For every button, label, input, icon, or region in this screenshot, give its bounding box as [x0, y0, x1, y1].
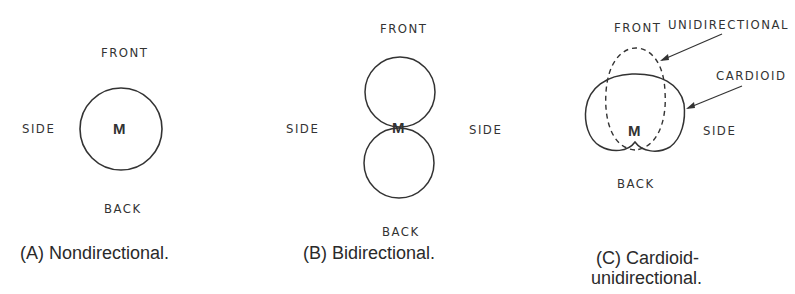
b-side-left-label: SIDE — [286, 121, 319, 136]
c-side-label: SIDE — [703, 123, 736, 138]
bidirectional-back-lobe — [364, 128, 434, 198]
a-mic-label: M — [113, 120, 126, 137]
a-caption: (A) Nondirectional. — [20, 243, 169, 264]
c-back-label: BACK — [617, 176, 655, 191]
b-caption: (B) Bidirectional. — [303, 243, 435, 264]
c-unidirectional-callout: UNIDIRECTIONAL — [668, 17, 789, 32]
unidirectional-arrow — [662, 34, 722, 60]
a-back-label: BACK — [104, 201, 142, 216]
c-caption-line2: unidirectional. — [591, 268, 702, 289]
b-back-label: BACK — [382, 224, 420, 239]
a-side-label: SIDE — [22, 121, 55, 136]
b-front-label: FRONT — [380, 21, 427, 36]
b-side-right-label: SIDE — [469, 122, 502, 137]
c-mic-label: M — [628, 122, 641, 139]
a-front-label: FRONT — [101, 45, 148, 60]
cardioid-pattern — [586, 74, 685, 151]
c-cardioid-callout: CARDIOID — [716, 68, 786, 83]
unidirectional-arrowhead — [660, 54, 669, 61]
cardioid-arrow — [688, 86, 742, 108]
bidirectional-front-lobe — [365, 57, 435, 127]
c-front-label: FRONT — [614, 20, 661, 35]
b-mic-label: M — [392, 119, 405, 136]
c-caption-line1: (C) Cardioid- — [596, 248, 699, 269]
cardioid-arrowhead — [686, 102, 695, 109]
